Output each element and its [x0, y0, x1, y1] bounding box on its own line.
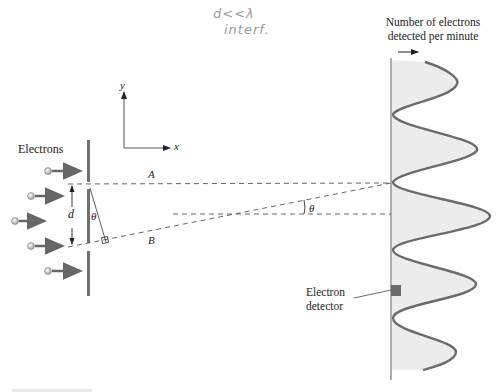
double-slit-barrier [87, 140, 90, 296]
x-axis-label: x [174, 140, 179, 152]
electron [45, 168, 79, 175]
electrons-label: Electrons [18, 142, 63, 157]
handwritten-note-line1: d<<λ [213, 6, 255, 21]
electron [12, 218, 43, 225]
y-axis-label: y [120, 79, 125, 91]
diagram-canvas [0, 0, 504, 392]
interference-pattern [392, 60, 490, 370]
detector-label-line2: detector [306, 299, 345, 313]
ray-b [68, 183, 391, 247]
ray-a [68, 183, 391, 184]
xy-axes [124, 92, 170, 148]
theta-slit-label: θ [91, 210, 96, 222]
slit-spacing-label: d [67, 207, 75, 222]
screen-title-line1: Number of electrons [363, 15, 503, 29]
electron [28, 243, 61, 250]
detector-leader-line [354, 290, 391, 298]
screen-title-line2: detected per minute [363, 29, 503, 43]
theta-arc [304, 200, 305, 214]
electron-detector-block [391, 285, 401, 296]
theta-center-label: θ [309, 202, 314, 214]
handwritten-note-line2: interf. [224, 22, 270, 37]
ray-paths [68, 183, 391, 247]
path-a-label: A [148, 168, 155, 180]
screen-title: Number of electrons detected per minute [363, 15, 503, 43]
double-slit-diagram: d<<λ interf. Number of electrons detecte… [0, 0, 504, 392]
detector-label-line1: Electron [306, 285, 345, 299]
path-b-label: B [148, 234, 155, 246]
electron [45, 268, 79, 275]
electron [28, 193, 61, 200]
detector-label: Electron detector [306, 285, 345, 313]
